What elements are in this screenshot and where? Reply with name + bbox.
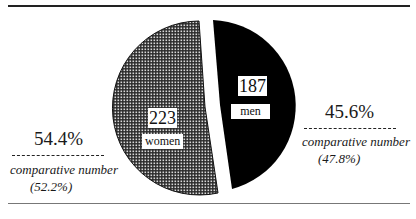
women-comparative-value: (52.2%) — [30, 178, 72, 195]
bottom-rule — [8, 203, 410, 204]
men-label: men — [231, 104, 270, 119]
men-comparative-value: (47.8%) — [318, 150, 360, 167]
women-value: 223 — [148, 108, 177, 128]
women-percent: 54.4% — [34, 128, 83, 150]
women-label: women — [142, 134, 183, 149]
women-comparative-note: comparative number — [10, 161, 118, 178]
men-divider — [304, 128, 396, 129]
men-percent: 45.6% — [325, 101, 374, 123]
men-comparative-note: comparative number — [302, 133, 410, 150]
women-divider — [12, 155, 104, 156]
men-value: 187 — [238, 76, 267, 96]
